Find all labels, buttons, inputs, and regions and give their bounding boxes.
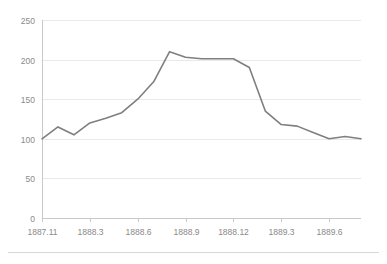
x-tick-label: 1889.3	[269, 227, 295, 237]
y-tick-label: 150	[21, 95, 35, 105]
x-tick-label: 1888.3	[78, 227, 104, 237]
data-series-line	[42, 52, 361, 139]
footer-divider	[8, 252, 379, 253]
x-axis-tick-labels: 1887.111888.31888.61888.91888.121889.318…	[27, 227, 342, 237]
x-tick-label: 1888.6	[126, 227, 152, 237]
y-tick-label: 0	[30, 214, 35, 224]
y-axis-tick-labels: 050100150200250	[21, 16, 35, 224]
x-tick-label: 1888.12	[218, 227, 249, 237]
x-tick-label: 1888.9	[174, 227, 200, 237]
chart-canvas: 050100150200250 1887.111888.31888.61888.…	[0, 0, 387, 264]
x-tick-label: 1889.6	[317, 227, 343, 237]
x-tick-label: 1887.11	[27, 227, 57, 237]
line-chart: 050100150200250 1887.111888.31888.61888.…	[0, 0, 387, 264]
y-tick-label: 50	[26, 174, 36, 184]
y-tick-label: 100	[21, 135, 35, 145]
gridlines-group	[42, 21, 361, 219]
y-tick-label: 200	[21, 56, 35, 66]
y-tick-label: 250	[21, 16, 35, 26]
